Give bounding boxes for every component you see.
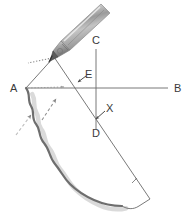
dashed-arrow-upper	[42, 99, 56, 120]
dashed-arrow-lower	[16, 115, 31, 135]
label-d: D	[92, 127, 100, 139]
tick-mark-lower-right	[132, 178, 137, 183]
arrow-to-x	[96, 111, 105, 119]
label-c: C	[92, 34, 100, 46]
label-e: E	[85, 68, 92, 80]
diagram-svg: A B C D E X	[0, 0, 189, 218]
dotted-guide-pen	[28, 58, 52, 63]
label-a: A	[10, 82, 18, 94]
figure-canvas: A B C D E X	[0, 0, 189, 218]
label-b: B	[174, 82, 181, 94]
stylus-pen-icon	[49, 4, 110, 62]
label-x: X	[106, 102, 114, 114]
